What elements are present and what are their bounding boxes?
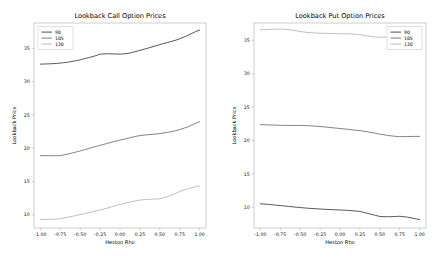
- chart-panel-put: Lookback Put Option Prices-1.00-0.75-0.5…: [220, 0, 439, 271]
- x-axis-label: Heston Rho: [105, 239, 134, 245]
- y-tick-label: 25: [243, 105, 249, 110]
- y-tick-label: 10: [243, 205, 249, 210]
- chart-svg-put: Lookback Put Option Prices-1.00-0.75-0.5…: [220, 0, 439, 271]
- y-tick-label: 10: [24, 212, 30, 217]
- y-axis-label: Lookback Price: [11, 106, 17, 144]
- series-line-105: [40, 122, 199, 156]
- y-tick-label: 35: [24, 46, 30, 51]
- legend-label-90: 90: [404, 30, 410, 35]
- x-tick-label: 0.50: [155, 232, 165, 237]
- y-axis-label: Lookback Price: [231, 106, 237, 144]
- y-tick-label: 20: [243, 138, 249, 143]
- legend-label-105: 105: [404, 36, 413, 41]
- chart-title: Lookback Call Option Prices: [74, 12, 166, 20]
- y-tick-label: 30: [24, 79, 30, 84]
- legend-label-105: 105: [55, 36, 64, 41]
- x-tick-label: -0.75: [54, 232, 66, 237]
- x-tick-label: 0.25: [354, 232, 364, 237]
- x-axis-label: Heston Rho: [325, 239, 354, 245]
- figure-canvas: Lookback Call Option Prices-1.00-0.75-0.…: [0, 0, 439, 271]
- x-tick-label: -1.00: [34, 232, 46, 237]
- legend-label-120: 120: [55, 42, 64, 47]
- x-tick-label: -0.50: [294, 232, 306, 237]
- x-tick-label: -0.25: [314, 232, 326, 237]
- legend-label-120: 120: [404, 42, 413, 47]
- x-tick-label: 1.00: [414, 232, 424, 237]
- y-tick-label: 15: [24, 179, 30, 184]
- chart-svg-call: Lookback Call Option Prices-1.00-0.75-0.…: [0, 0, 220, 271]
- x-tick-label: 0.75: [394, 232, 404, 237]
- x-tick-label: 0.25: [135, 232, 145, 237]
- x-tick-label: 0.00: [334, 232, 344, 237]
- y-tick-label: 30: [243, 71, 249, 76]
- series-line-105: [260, 125, 419, 137]
- y-tick-label: 35: [243, 38, 249, 43]
- y-tick-label: 20: [24, 146, 30, 151]
- y-tick-label: 15: [243, 172, 249, 177]
- x-tick-label: -0.25: [94, 232, 106, 237]
- y-tick-label: 25: [24, 113, 30, 118]
- x-tick-label: -0.75: [274, 232, 286, 237]
- x-tick-label: 0.00: [115, 232, 125, 237]
- chart-legend[interactable]: 90105120: [387, 27, 422, 50]
- series-line-90: [260, 204, 419, 220]
- legend-label-90: 90: [55, 30, 61, 35]
- x-tick-label: 0.75: [175, 232, 185, 237]
- series-line-120: [40, 186, 199, 220]
- chart-panel-call: Lookback Call Option Prices-1.00-0.75-0.…: [0, 0, 220, 271]
- chart-title: Lookback Put Option Prices: [295, 12, 385, 20]
- chart-legend[interactable]: 90105120: [38, 27, 73, 50]
- x-tick-label: -0.50: [74, 232, 86, 237]
- x-tick-label: -1.00: [254, 232, 266, 237]
- x-tick-label: 0.50: [374, 232, 384, 237]
- x-tick-label: 1.00: [194, 232, 204, 237]
